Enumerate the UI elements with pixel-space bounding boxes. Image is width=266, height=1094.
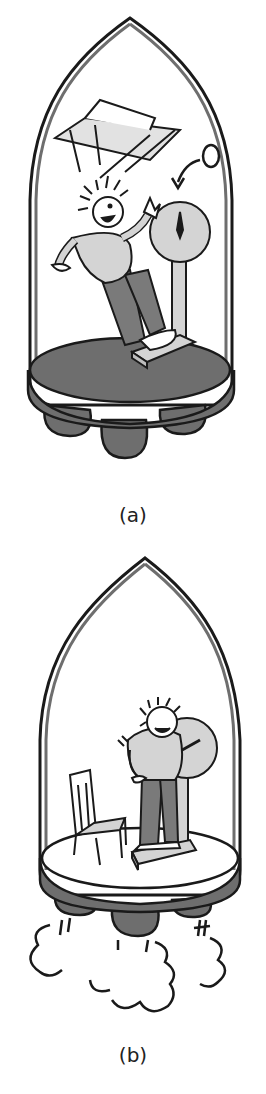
rocket-free-fall-illustration [0,0,266,540]
rocket-legs [44,405,206,458]
rocket-accelerating-illustration [0,540,266,1094]
panel-b-accelerating: (b) [0,540,266,1094]
rocket-floor [30,338,230,402]
panel-b-caption: (b) [0,1043,266,1067]
panel-a-caption: (a) [0,503,266,527]
panel-a-free-fall: (a) [0,0,266,540]
